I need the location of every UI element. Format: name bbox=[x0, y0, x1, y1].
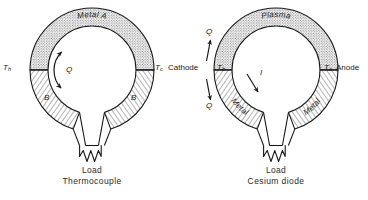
figure-caption: Cesium diode bbox=[184, 176, 368, 186]
cathode-label: Cathode bbox=[168, 63, 198, 72]
thermocouple-figure: Metal A Th Tc Q B B Load Thermocouple bbox=[0, 0, 184, 200]
cesium-diode-figure: Plasma Metal Metal Cathode Th Tc Anode Q… bbox=[184, 0, 368, 200]
heat-in-arrow bbox=[207, 40, 211, 61]
hot-junction-label: Th bbox=[3, 63, 11, 72]
load-resistor bbox=[264, 146, 286, 162]
current-label: I bbox=[260, 68, 262, 77]
lower-left-arc-label: B bbox=[44, 93, 49, 102]
heat-out-arrow bbox=[207, 79, 211, 100]
lower-right-arc-label: B bbox=[131, 93, 136, 102]
figure-caption: Thermocouple bbox=[0, 176, 184, 186]
load-label: Load bbox=[0, 165, 184, 175]
load-label: Load bbox=[184, 165, 368, 175]
load-resistor bbox=[80, 146, 102, 162]
ring-lower-left-arc bbox=[30, 70, 80, 129]
load-leads bbox=[73, 112, 111, 145]
anode-label: Anode bbox=[336, 63, 359, 72]
load-leads bbox=[257, 112, 295, 145]
ring-lower-right-arc bbox=[105, 70, 155, 129]
heat-flow-label: Q bbox=[66, 65, 72, 74]
cold-junction-label: Tc bbox=[324, 63, 332, 72]
heat-in-label: Q bbox=[206, 27, 212, 36]
figure-pair: Metal A Th Tc Q B B Load Thermocouple bbox=[0, 0, 368, 200]
cold-junction-label: Tc bbox=[155, 63, 163, 72]
heat-flow-arrow bbox=[54, 52, 61, 88]
heat-out-label: Q bbox=[206, 101, 212, 110]
hot-junction-label: Th bbox=[217, 63, 225, 72]
current-arrow bbox=[247, 74, 258, 92]
